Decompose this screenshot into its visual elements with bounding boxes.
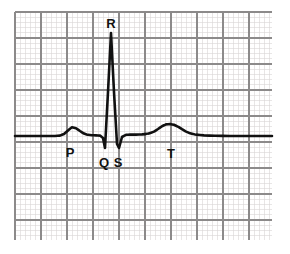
wave-label-s: S (114, 155, 123, 170)
wave-label-p: P (66, 145, 75, 160)
wave-label-r: R (106, 16, 116, 31)
wave-label-q: Q (99, 155, 109, 170)
ecg-figure: RPQST (0, 0, 290, 254)
wave-label-t: T (167, 146, 175, 161)
ecg-chart-svg: RPQST (0, 0, 290, 254)
